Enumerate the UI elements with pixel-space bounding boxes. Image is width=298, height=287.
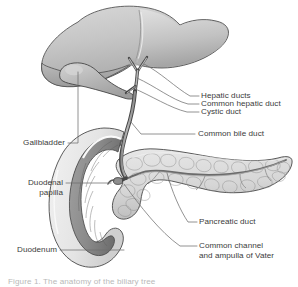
duodenal-papilla-opening [108, 180, 114, 184]
label-cystic-duct: Cystic duct [201, 107, 241, 117]
anatomy-figure: Hepatic ducts Common hepatic duct Cystic… [0, 0, 298, 287]
pancreas-organ [112, 149, 292, 219]
leader-cystic-duct [133, 88, 199, 112]
duodenum-organ [49, 128, 124, 267]
label-duodenum: Duodenum [0, 245, 57, 255]
figure-caption: Figure 1. The anatomy of the biliary tre… [8, 277, 155, 286]
leader-common-bile-duct [131, 122, 195, 134]
label-common-bile-duct: Common bile duct [198, 129, 264, 139]
label-common-channel-line1: Common channel [199, 241, 263, 251]
label-duodenal-papilla-line2: papilla [0, 188, 63, 198]
ampulla-of-vater [113, 178, 122, 185]
leader-common-hepatic-duct [137, 78, 199, 104]
label-pancreatic-duct: Pancreatic duct [199, 217, 256, 227]
label-common-channel-line2: and ampulla of Vater [199, 251, 274, 261]
leader-hepatic-ducts [144, 64, 199, 96]
label-gallbladder: Gallbladder [0, 138, 65, 148]
gallbladder-fundus-highlight [65, 65, 83, 75]
label-duodenal-papilla-line1: Duodenal [0, 178, 63, 188]
liver-left-lobe-highlight [137, 9, 228, 67]
